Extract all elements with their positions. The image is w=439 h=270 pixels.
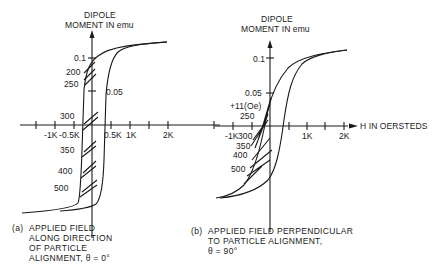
panel-b-y-tick-label: 0.1 (253, 54, 265, 64)
panel-b-caption-line: TO PARTICLE ALIGNMENT, (208, 236, 353, 246)
panel-a-caption-line: ALIGNMENT, θ = 0° (29, 253, 112, 263)
panel-b-caption-prefix: (b) (191, 226, 202, 236)
panel-a-y-tick-label: 0.1 (74, 53, 86, 63)
panel-a-x-tick-label: -0.5K (59, 130, 80, 140)
panel-b-curve-label: 400 (233, 150, 247, 160)
panel-b-caption-line: APPLIED FIELD PERPENDICULAR (208, 226, 353, 236)
panel-b-y-axis-title-line1: DIPOLE (261, 14, 293, 24)
panel-a-caption-prefix: (a) (12, 223, 23, 233)
panel-b-x-axis-title: H IN OERSTEDS (360, 121, 427, 131)
panel-b-y-tick-label: 0.05 (245, 88, 262, 98)
panel-b-curve-label: +11(Oe) (230, 101, 262, 111)
panel-a-hysteresis-loop (22, 42, 167, 213)
panel-a-y-axis-title-line1: DIPOLE (84, 10, 116, 20)
panel-a-x-tick-label: 2K (163, 130, 174, 140)
panel-a-x-tick-label: 1K (126, 130, 137, 140)
panel-a-y-axis-title-line2: MOMENT IN emu (65, 20, 134, 30)
panel-b-caption-line: θ = 90° (208, 246, 353, 256)
panel-a-caption-line: APPLIED FIELD (29, 223, 112, 233)
panel-b-curve-label: 500 (231, 164, 245, 174)
panel-a-curve-label: 250 (64, 79, 78, 89)
panel-a-caption-line: OF PARTICLE (29, 243, 112, 253)
panel-b-y-axis-title-line2: MOMENT IN emu (241, 24, 310, 34)
panel-a-curve-label: 300 (60, 111, 74, 121)
panel-b-curve-label: 250 (240, 111, 254, 121)
panel-b-x-tick-label: 1K (302, 131, 313, 141)
panel-a-x-tick-label: 0.5K (104, 130, 122, 140)
panel-a-curve-label: 500 (54, 183, 68, 193)
panel-a-curve-label: 200 (66, 67, 80, 77)
panel-a-caption-line: ALONG DIRECTION (29, 233, 112, 243)
panel-a-x-tick-label: -1K (44, 130, 58, 140)
panel-a-curve-label: 400 (58, 166, 72, 176)
panel-a-curve-label: 350 (60, 145, 74, 155)
panel-b-x-tick-label: 2K (339, 131, 350, 141)
panel-b-x-tick-label: -1K (225, 131, 239, 141)
panel-a-y-tick-label: 0.05 (106, 87, 123, 97)
panel-b-curve-label: 300 (238, 131, 252, 141)
panel-b-hysteresis-loop (216, 50, 347, 198)
